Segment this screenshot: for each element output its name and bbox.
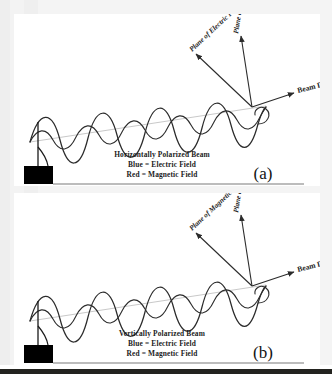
panel-b: Plane of Magnetic Field Plane of Electri…	[14, 193, 320, 365]
source-block-a	[24, 166, 53, 184]
caption-title-b: Vertically Polarized Beam	[119, 329, 206, 338]
vertical-plane-label-a: Plane of Magnetic Field	[232, 14, 251, 34]
figure-root: Plane of Electric Field Plane of Magneti…	[0, 0, 332, 378]
caption-electric-b: Blue = Electric Field	[128, 339, 197, 348]
panel-letter-a: (a)	[254, 164, 273, 183]
diagonal-plane-arrow-a	[196, 54, 252, 107]
diagonal-plane-arrow-b	[196, 233, 252, 286]
beam-direction-arrow-b	[252, 272, 294, 286]
beam-direction-label-a: Beam Direction	[296, 74, 320, 95]
source-hook-b	[38, 326, 48, 345]
panel-b-diagram: Plane of Magnetic Field Plane of Electri…	[14, 193, 320, 365]
wave-small-amplitude-a	[30, 107, 266, 149]
source-hook-a	[38, 147, 48, 166]
panel-a-diagram: Plane of Electric Field Plane of Magneti…	[14, 14, 320, 186]
wave-small-amplitude-b	[30, 286, 266, 328]
vertical-plane-arrow-a	[241, 36, 252, 107]
caption-title-a: Horizontally Polarized Beam	[114, 150, 210, 159]
caption-electric-a: Blue = Electric Field	[128, 160, 197, 169]
panel-a: Plane of Electric Field Plane of Magneti…	[14, 14, 320, 186]
panel-letter-b: (b)	[253, 343, 273, 362]
source-block-b	[24, 345, 53, 363]
caption-magnetic-a: Red = Magnetic Field	[126, 170, 198, 179]
page-bottom-rule	[0, 369, 332, 374]
caption-magnetic-b: Red = Magnetic Field	[126, 349, 198, 358]
vertical-plane-label-b: Plane of Electric Field	[232, 193, 250, 213]
vertical-plane-arrow-b	[241, 215, 252, 286]
page-bottom-band	[0, 365, 332, 378]
beam-direction-label-b: Beam Direction	[296, 253, 320, 274]
beam-direction-arrow-a	[252, 93, 294, 107]
